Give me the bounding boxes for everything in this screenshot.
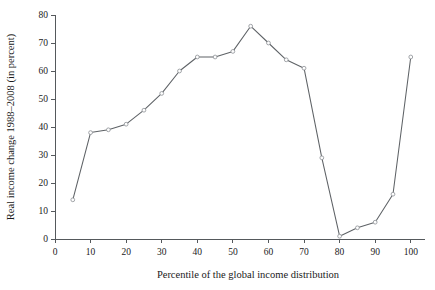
data-point-marker (71, 198, 75, 202)
data-point-marker (195, 55, 199, 59)
data-point-marker (409, 55, 413, 59)
chart-figure: 010203040506070800102030405060708090100P… (0, 0, 435, 290)
series-line-real-income-change (73, 26, 411, 236)
y-tick-label: 80 (39, 10, 49, 20)
y-tick-label: 50 (39, 94, 49, 104)
y-tick-label: 70 (39, 38, 49, 48)
data-point-marker (213, 55, 217, 59)
data-point-marker (267, 41, 271, 45)
x-tick-label: 90 (370, 247, 380, 257)
y-tick-label: 20 (39, 178, 49, 188)
x-tick-label: 0 (53, 247, 58, 257)
y-tick-label: 10 (39, 206, 49, 216)
x-axis-title: Percentile of the global income distribu… (157, 269, 340, 280)
x-tick-label: 60 (264, 247, 274, 257)
data-point-marker (302, 66, 306, 70)
data-point-marker (249, 24, 253, 28)
y-tick-label: 40 (39, 122, 49, 132)
x-tick-label: 80 (335, 247, 345, 257)
y-tick-label: 60 (39, 66, 49, 76)
chart-plot-area: 010203040506070800102030405060708090100P… (0, 0, 435, 290)
data-point-marker (89, 131, 93, 135)
x-tick-label: 100 (404, 247, 419, 257)
data-point-marker (338, 234, 342, 238)
x-tick-label: 30 (157, 247, 167, 257)
x-tick-label: 50 (228, 247, 238, 257)
data-point-marker (320, 156, 324, 160)
data-point-marker (142, 108, 146, 112)
data-point-marker (160, 92, 164, 96)
x-tick-label: 40 (193, 247, 203, 257)
data-point-marker (231, 50, 235, 54)
data-point-marker (391, 192, 395, 196)
x-tick-label: 70 (299, 247, 309, 257)
x-tick-label: 10 (86, 247, 96, 257)
y-axis-title: Real income change 1988–2008 (in percent… (5, 33, 17, 220)
data-point-marker (284, 58, 288, 62)
x-tick-label: 20 (121, 247, 131, 257)
y-tick-label: 0 (43, 234, 48, 244)
data-point-marker (373, 220, 377, 224)
y-tick-label: 30 (39, 150, 49, 160)
data-point-marker (356, 226, 360, 230)
data-point-marker (178, 69, 182, 73)
data-point-marker (124, 122, 128, 126)
data-point-marker (106, 128, 110, 132)
